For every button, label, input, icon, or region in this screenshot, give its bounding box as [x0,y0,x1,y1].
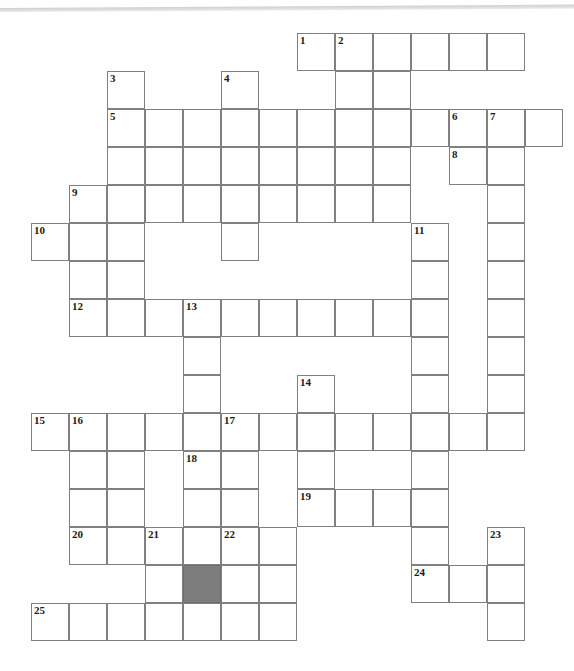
crossword-cell[interactable]: 14 [297,375,335,413]
crossword-cell[interactable] [69,489,107,527]
crossword-cell[interactable] [487,261,525,299]
crossword-cell[interactable]: 16 [69,413,107,451]
crossword-cell[interactable] [107,603,145,641]
crossword-cell[interactable] [221,223,259,261]
crossword-cell[interactable] [373,147,411,185]
crossword-cell[interactable]: 21 [145,527,183,565]
crossword-cell[interactable] [221,147,259,185]
crossword-cell[interactable] [183,413,221,451]
crossword-cell[interactable] [373,33,411,71]
crossword-cell[interactable] [297,109,335,147]
crossword-cell[interactable]: 7 [487,109,525,147]
crossword-cell[interactable]: 19 [297,489,335,527]
crossword-cell[interactable]: 25 [31,603,69,641]
crossword-cell[interactable] [69,451,107,489]
crossword-cell[interactable] [373,185,411,223]
crossword-cell[interactable] [183,375,221,413]
crossword-cell[interactable] [259,527,297,565]
crossword-cell[interactable] [335,71,373,109]
crossword-cell[interactable] [107,261,145,299]
crossword-cell[interactable] [297,451,335,489]
crossword-cell[interactable] [145,565,183,603]
crossword-cell[interactable] [487,299,525,337]
crossword-cell[interactable] [107,299,145,337]
crossword-cell[interactable] [259,413,297,451]
crossword-cell[interactable] [145,603,183,641]
crossword-cell[interactable]: 2 [335,33,373,71]
crossword-cell[interactable] [221,603,259,641]
crossword-cell[interactable] [69,603,107,641]
crossword-cell[interactable] [221,451,259,489]
crossword-cell[interactable]: 8 [449,147,487,185]
crossword-cell[interactable]: 23 [487,527,525,565]
crossword-cell[interactable] [107,489,145,527]
crossword-cell[interactable] [107,451,145,489]
crossword-cell[interactable] [335,147,373,185]
crossword-cell[interactable] [221,185,259,223]
crossword-cell[interactable] [449,565,487,603]
crossword-cell[interactable]: 1 [297,33,335,71]
crossword-cell[interactable] [297,147,335,185]
crossword-cell[interactable] [221,565,259,603]
crossword-cell[interactable]: 3 [107,71,145,109]
crossword-cell[interactable] [487,33,525,71]
crossword-cell[interactable] [411,375,449,413]
crossword-cell[interactable] [335,185,373,223]
crossword-cell[interactable] [183,489,221,527]
crossword-cell[interactable]: 18 [183,451,221,489]
crossword-cell[interactable]: 20 [69,527,107,565]
crossword-cell[interactable] [183,147,221,185]
crossword-cell[interactable] [221,299,259,337]
crossword-cell[interactable] [449,413,487,451]
crossword-cell[interactable] [297,185,335,223]
crossword-cell[interactable] [487,147,525,185]
crossword-cell[interactable] [183,109,221,147]
crossword-cell[interactable] [183,185,221,223]
crossword-cell[interactable] [487,375,525,413]
crossword-cell[interactable]: 22 [221,527,259,565]
crossword-cell[interactable] [449,33,487,71]
crossword-cell[interactable] [259,147,297,185]
crossword-cell[interactable] [411,451,449,489]
crossword-cell[interactable]: 6 [449,109,487,147]
crossword-cell[interactable] [335,109,373,147]
crossword-cell[interactable] [259,565,297,603]
crossword-cell[interactable] [183,527,221,565]
crossword-cell[interactable] [183,603,221,641]
crossword-cell[interactable] [107,527,145,565]
crossword-cell[interactable]: 11 [411,223,449,261]
crossword-cell[interactable] [145,185,183,223]
crossword-cell[interactable] [411,489,449,527]
crossword-cell[interactable] [411,33,449,71]
crossword-cell[interactable] [373,489,411,527]
crossword-cell[interactable] [335,413,373,451]
crossword-cell[interactable] [221,489,259,527]
crossword-cell[interactable] [411,413,449,451]
crossword-cell[interactable] [335,299,373,337]
crossword-cell[interactable] [487,185,525,223]
crossword-cell[interactable] [411,109,449,147]
crossword-cell[interactable] [411,261,449,299]
crossword-cell[interactable]: 5 [107,109,145,147]
crossword-cell[interactable]: 13 [183,299,221,337]
crossword-cell[interactable] [145,299,183,337]
crossword-cell[interactable] [107,147,145,185]
crossword-cell[interactable] [487,565,525,603]
crossword-cell[interactable]: 12 [69,299,107,337]
crossword-grid[interactable]: 1234567891011121314151617181920212223242… [0,0,574,671]
crossword-cell[interactable] [145,109,183,147]
crossword-cell[interactable] [487,413,525,451]
crossword-cell[interactable] [183,337,221,375]
crossword-cell[interactable] [297,299,335,337]
crossword-cell[interactable] [373,109,411,147]
crossword-cell[interactable] [221,109,259,147]
crossword-cell[interactable] [373,71,411,109]
crossword-cell[interactable] [69,223,107,261]
crossword-cell[interactable] [373,413,411,451]
crossword-cell[interactable] [411,299,449,337]
crossword-cell[interactable]: 9 [69,185,107,223]
crossword-cell[interactable] [487,223,525,261]
crossword-cell[interactable]: 24 [411,565,449,603]
crossword-cell[interactable] [145,413,183,451]
crossword-cell[interactable] [335,489,373,527]
